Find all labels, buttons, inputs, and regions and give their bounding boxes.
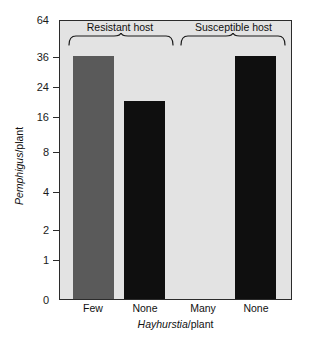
x-tick-label-many: Many [173, 303, 233, 315]
bar-none-resistant [124, 101, 165, 299]
x-axis-title-genus: Hayhurstia [138, 318, 188, 330]
y-tick-label-24: 24 [5, 82, 49, 93]
y-tick-label-2: 2 [5, 225, 49, 236]
x-tick-label-none-susceptible: None [226, 303, 286, 315]
y-axis-title-genus: Pemphigus [13, 153, 25, 206]
group-label-susceptible-host: Susceptible host [181, 21, 286, 33]
x-tick-label-none-resistant: None [115, 303, 175, 315]
plot-area [59, 20, 292, 300]
y-tick-label-64: 64 [5, 15, 49, 26]
group-label-resistant-host: Resistant host [70, 21, 170, 33]
y-tick-label-8: 8 [5, 147, 49, 158]
bar-none-susceptible [235, 56, 276, 299]
y-tick-label-1: 1 [5, 255, 49, 266]
y-tick-label-36: 36 [5, 52, 49, 63]
bar-few-resistant [73, 56, 114, 299]
figure-container: 64 36 24 16 8 4 2 1 0 Pemphigus/plant Re… [0, 0, 314, 344]
x-tick-label-few: Few [63, 303, 123, 315]
y-axis-title-unit: /plant [13, 127, 25, 153]
x-axis-title: Hayhurstia/plant [59, 318, 292, 330]
resistant-host-brace-icon [66, 33, 176, 46]
bars-layer [60, 21, 291, 299]
y-tick-label-4: 4 [5, 187, 49, 198]
x-axis-title-unit: /plant [188, 318, 214, 330]
y-tick-label-0: 0 [5, 295, 49, 306]
y-axis-title: Pemphigus/plant [13, 106, 25, 226]
y-tick-label-16: 16 [5, 112, 49, 123]
susceptible-host-brace-icon [178, 33, 288, 46]
